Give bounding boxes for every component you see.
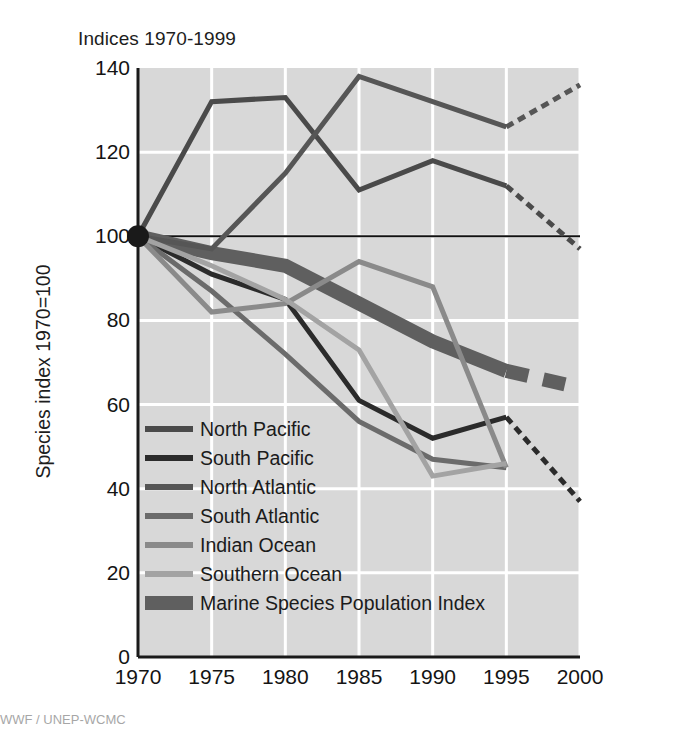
legend-label: Marine Species Population Index — [200, 594, 485, 614]
legend-label: North Pacific — [200, 420, 311, 440]
legend-swatch — [145, 455, 193, 461]
legend-label: South Atlantic — [200, 507, 319, 527]
y-tick-label: 40 — [60, 478, 130, 499]
legend-label: North Atlantic — [200, 478, 316, 498]
legend-label: South Pacific — [200, 449, 314, 469]
legend-label: Southern Ocean — [200, 565, 342, 585]
y-tick-label: 0 — [60, 646, 130, 667]
y-tick-label: 20 — [60, 562, 130, 583]
y-axis-tick-labels: 020406080100120140 — [58, 0, 130, 731]
x-tick-label: 2000 — [535, 666, 625, 687]
footer-credit: WWF / UNEP-WCMC — [0, 712, 260, 728]
y-tick-label: 140 — [60, 57, 130, 78]
legend-swatch — [145, 596, 193, 610]
legend-label: Indian Ocean — [200, 536, 316, 556]
y-tick-label: 60 — [60, 394, 130, 415]
legend-swatch — [145, 571, 193, 577]
legend-swatch — [145, 542, 193, 548]
y-tick-label: 120 — [60, 141, 130, 162]
legend-swatch — [145, 484, 193, 490]
chart-figure: Indices 1970-1999 Species index 1970=100… — [0, 0, 685, 731]
legend-swatch — [145, 513, 193, 519]
y-tick-label: 100 — [60, 225, 130, 246]
y-tick-label: 80 — [60, 309, 130, 330]
origin-marker — [127, 225, 149, 247]
y-axis-label: Species index 1970=100 — [32, 192, 55, 552]
legend-swatch — [145, 426, 193, 432]
